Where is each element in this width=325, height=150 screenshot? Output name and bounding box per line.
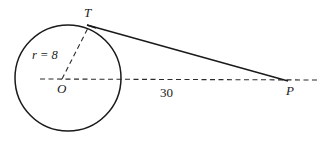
tangent-segment [87,25,288,81]
diagram-canvas [0,0,325,150]
label-distance-value: 30 [160,86,173,99]
label-tangent-point-t: T [84,6,91,19]
label-center-o: O [57,82,66,95]
label-external-point-p: P [286,84,294,97]
radius-dashed-segment [62,26,89,79]
circle [15,25,121,131]
label-radius-value: r = 8 [32,49,58,62]
center-axis-dashed-line [40,79,320,80]
geometry-figure: T O P r = 8 30 [0,0,325,150]
